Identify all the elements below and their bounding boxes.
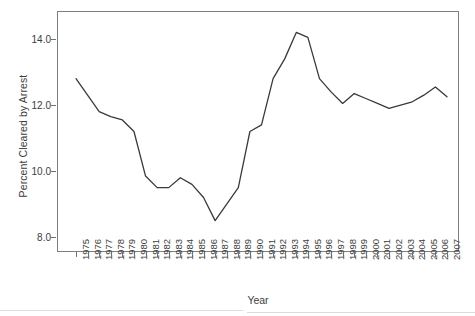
- line-series-percent-cleared-by-arrest: [76, 32, 447, 220]
- x-tick-label: 1989: [242, 239, 253, 260]
- x-tick-label: 2004: [416, 239, 427, 260]
- x-tick-mark: [262, 252, 263, 257]
- x-tick-label: 2005: [428, 239, 439, 260]
- x-tick-mark: [401, 252, 402, 257]
- footer-rule-right: [247, 312, 475, 313]
- x-tick-label: 1981: [150, 239, 161, 260]
- y-tick-label: 8.0: [5, 232, 51, 243]
- x-tick-label: 1980: [138, 239, 149, 260]
- x-tick-mark: [250, 252, 251, 257]
- x-tick-mark: [435, 252, 436, 257]
- x-tick-mark: [354, 252, 355, 257]
- x-tick-label: 1979: [126, 239, 137, 260]
- x-tick-mark: [204, 252, 205, 257]
- x-tick-mark: [389, 252, 390, 257]
- x-tick-label: 1997: [335, 239, 346, 260]
- x-tick-label: 1983: [173, 239, 184, 260]
- x-tick-mark: [285, 252, 286, 257]
- x-tick-mark: [412, 252, 413, 257]
- x-tick-mark: [273, 252, 274, 257]
- x-tick-label: 1998: [347, 239, 358, 260]
- x-tick-mark: [227, 252, 228, 257]
- x-tick-mark: [424, 252, 425, 257]
- x-tick-mark: [169, 252, 170, 257]
- x-tick-label: 1990: [254, 239, 265, 260]
- y-tick-label: 12.0: [5, 100, 51, 111]
- x-tick-mark: [238, 252, 239, 257]
- y-axis-ticks: 8.010.012.014.0: [0, 0, 51, 316]
- x-axis-title: Year: [57, 294, 459, 306]
- x-tick-mark: [88, 252, 89, 257]
- x-tick-label: 1993: [289, 239, 300, 260]
- x-tick-label: 1978: [115, 239, 126, 260]
- x-tick-mark: [343, 252, 344, 257]
- x-tick-label: 1975: [80, 239, 91, 260]
- x-tick-label: 2002: [393, 239, 404, 260]
- x-tick-mark: [215, 252, 216, 257]
- y-tick-mark: [51, 105, 56, 106]
- y-tick-label: 10.0: [5, 166, 51, 177]
- x-tick-label: 1994: [300, 239, 311, 260]
- x-tick-label: 1995: [312, 239, 323, 260]
- line-series-svg: [57, 11, 459, 252]
- data-line-container: [57, 11, 459, 252]
- x-tick-mark: [296, 252, 297, 257]
- x-tick-mark: [192, 252, 193, 257]
- footer-rule-left: [0, 310, 243, 311]
- x-tick-mark: [122, 252, 123, 257]
- x-tick-mark: [447, 252, 448, 257]
- x-tick-label: 1986: [208, 239, 219, 260]
- x-tick-mark: [111, 252, 112, 257]
- chart-figure: Percent Cleared by Arrest 8.010.012.014.…: [0, 0, 475, 316]
- y-tick-mark: [51, 39, 56, 40]
- x-tick-label: 1976: [92, 239, 103, 260]
- x-tick-label: 1988: [231, 239, 242, 260]
- x-tick-label: 1985: [196, 239, 207, 260]
- y-tick-label: 14.0: [5, 34, 51, 45]
- x-tick-label: 2000: [370, 239, 381, 260]
- x-tick-label: 1982: [161, 239, 172, 260]
- x-tick-label: 1999: [358, 239, 369, 260]
- x-tick-label: 1984: [184, 239, 195, 260]
- x-tick-mark: [319, 252, 320, 257]
- x-tick-label: 1991: [266, 239, 277, 260]
- x-tick-label: 2003: [405, 239, 416, 260]
- x-tick-mark: [366, 252, 367, 257]
- x-tick-label: 1992: [277, 239, 288, 260]
- x-tick-label: 2001: [381, 239, 392, 260]
- x-tick-mark: [308, 252, 309, 257]
- x-tick-mark: [76, 252, 77, 257]
- x-tick-label: 2006: [439, 239, 450, 260]
- x-tick-mark: [146, 252, 147, 257]
- x-tick-mark: [180, 252, 181, 257]
- x-tick-mark: [99, 252, 100, 257]
- y-tick-mark: [51, 237, 56, 238]
- x-tick-mark: [157, 252, 158, 257]
- y-tick-mark: [51, 171, 56, 172]
- x-tick-label: 1996: [323, 239, 334, 260]
- x-tick-mark: [377, 252, 378, 257]
- x-tick-mark: [134, 252, 135, 257]
- x-tick-label: 1987: [219, 239, 230, 260]
- x-tick-mark: [331, 252, 332, 257]
- x-tick-label: 1977: [103, 239, 114, 260]
- x-tick-label: 2007: [451, 239, 462, 260]
